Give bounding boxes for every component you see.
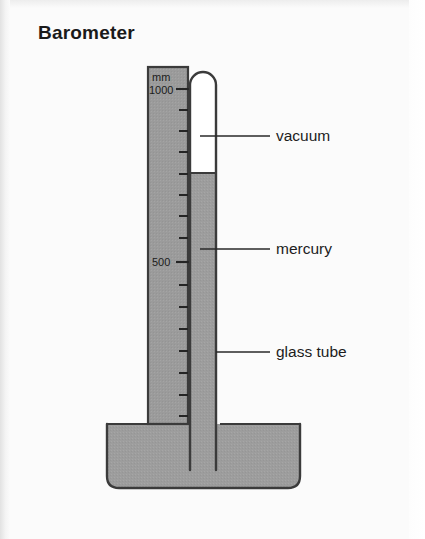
barometer-diagram	[0, 0, 425, 539]
scale-value-500: 500	[152, 256, 170, 268]
diagram-page: Barometer	[0, 0, 425, 539]
glass-tube	[188, 72, 218, 473]
scale-plate	[148, 67, 188, 424]
scale-unit-label: mm	[152, 71, 170, 83]
callout-label-mercury: mercury	[276, 240, 332, 258]
mercury-column-fill	[188, 173, 218, 473]
scale-plate-body	[148, 67, 188, 424]
callout-label-glass-tube: glass tube	[276, 343, 347, 361]
scale-value-1000: 1000	[149, 84, 173, 96]
mercury-column	[188, 173, 218, 473]
callout-label-vacuum: vacuum	[276, 127, 330, 145]
